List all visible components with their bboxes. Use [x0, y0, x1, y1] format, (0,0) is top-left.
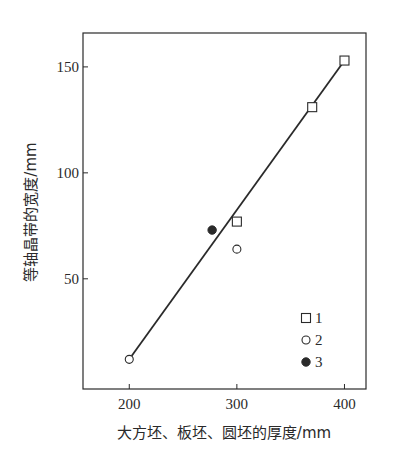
- y-tick-label: 150: [57, 59, 80, 75]
- open-circle-marker: [125, 355, 133, 363]
- open-circle-marker: [233, 245, 241, 253]
- y-tick-label: 100: [57, 165, 80, 181]
- legend-label-3: 3: [315, 354, 323, 370]
- square-marker: [232, 217, 241, 226]
- square-marker: [308, 103, 317, 112]
- plot-frame: [83, 33, 366, 389]
- square-marker: [302, 314, 311, 323]
- legend-label-1: 1: [315, 310, 323, 326]
- filled-circle-marker: [302, 358, 310, 366]
- y-tick-label: 50: [64, 271, 79, 287]
- chart: 20030040050100150 123 大方坯、板坯、圆坯的厚度/mm 等轴…: [0, 0, 393, 455]
- x-axis-label: 大方坯、板坯、圆坯的厚度/mm: [117, 424, 331, 442]
- x-tick-label: 400: [333, 396, 356, 412]
- plot-border: [83, 33, 366, 389]
- filled-circle-marker: [208, 226, 216, 234]
- open-circle-marker: [302, 336, 310, 344]
- x-tick-label: 300: [226, 396, 249, 412]
- x-tick-label: 200: [118, 396, 141, 412]
- legend-label-2: 2: [315, 332, 323, 348]
- legend: 123: [302, 310, 323, 370]
- y-axis-label: 等轴晶带的宽度/mm: [22, 142, 40, 281]
- square-marker: [340, 56, 349, 65]
